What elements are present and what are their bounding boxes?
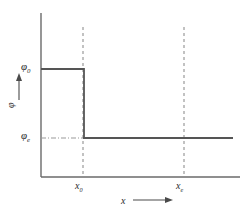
y-axis-arrow-icon — [16, 73, 22, 100]
figure-container: φ0 φe x0 xe φ x — [0, 0, 251, 214]
x-axis-title: x — [121, 196, 125, 206]
plot-svg — [0, 0, 251, 214]
x-tick-label-xe: xe — [176, 181, 183, 193]
x-tick-label-x0: x0 — [75, 181, 83, 193]
x-axis-arrow-icon — [133, 197, 173, 203]
y-tick-label-phi0: φ0 — [21, 61, 31, 75]
y-tick-label-phie: φe — [21, 130, 30, 144]
y-axis-title: φ — [6, 102, 16, 108]
